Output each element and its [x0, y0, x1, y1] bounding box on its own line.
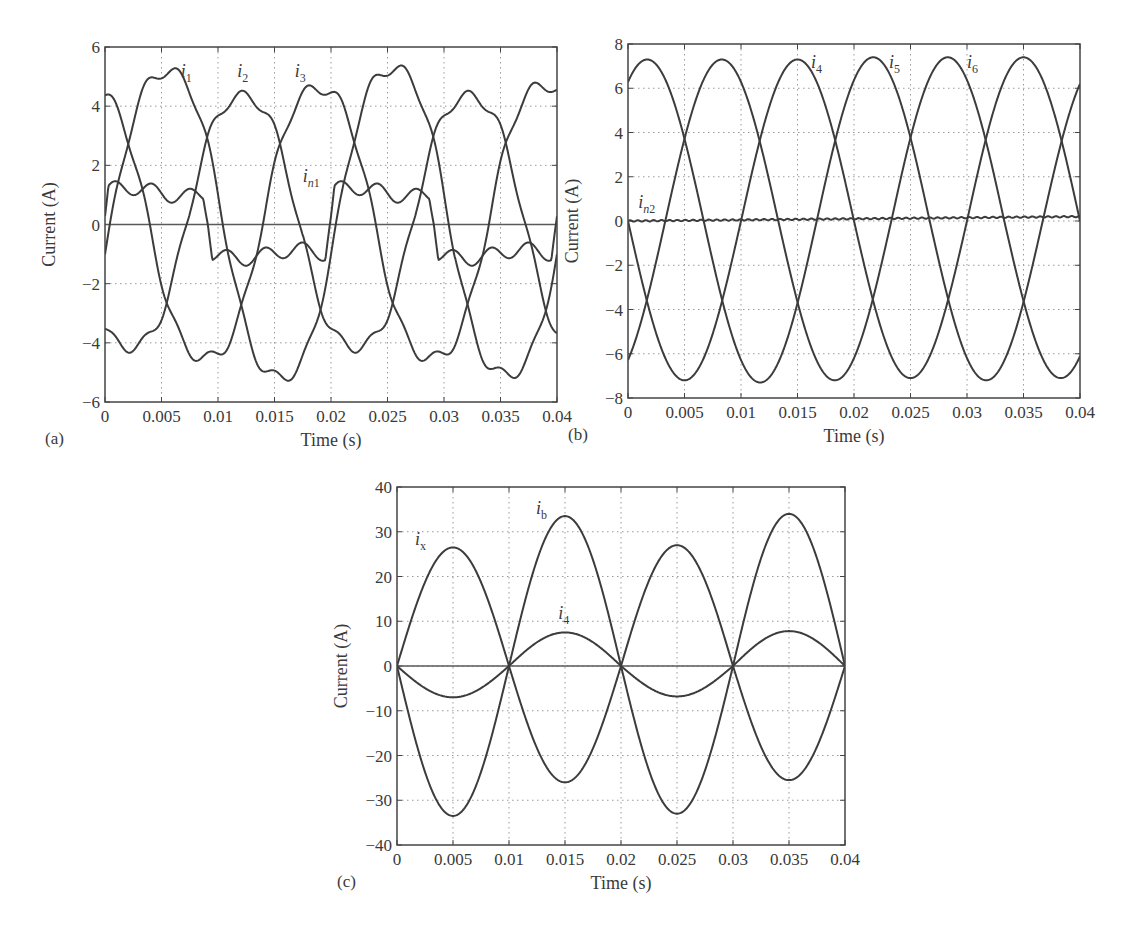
svg-text:20: 20 [375, 568, 392, 587]
svg-text:0.035: 0.035 [481, 407, 519, 426]
svg-text:−8: −8 [605, 389, 623, 408]
svg-text:0.03: 0.03 [952, 403, 982, 422]
curve-label-in2: in2 [638, 192, 655, 216]
svg-text:0: 0 [92, 216, 101, 235]
svg-text:0.015: 0.015 [546, 850, 584, 869]
x-axis-title: Time (s) [824, 426, 885, 447]
curve-labels: i1i2i3in1 [181, 61, 320, 190]
svg-text:4: 4 [92, 97, 101, 116]
y-tick-labels: −6−4−20246 [82, 38, 101, 412]
x-tick-labels: 00.0050.010.0150.020.0250.030.0350.04 [101, 407, 573, 426]
curve-label-i5: i5 [889, 52, 900, 76]
svg-text:−4: −4 [82, 334, 101, 353]
svg-text:30: 30 [375, 523, 392, 542]
y-axis-title: Current (A) [562, 179, 583, 263]
svg-text:0.035: 0.035 [1004, 403, 1042, 422]
chart-panel-a: 00.0050.010.0150.020.0250.030.0350.04−6−… [39, 38, 572, 451]
svg-text:0: 0 [615, 212, 624, 231]
y-axis-title: Current (A) [39, 182, 60, 266]
svg-text:0: 0 [393, 850, 402, 869]
svg-text:6: 6 [92, 38, 101, 57]
svg-text:−4: −4 [605, 301, 624, 320]
curve-label-ib: ib [536, 498, 547, 522]
y-tick-labels: −8−6−4−202468 [605, 35, 624, 408]
panel-label: (c) [337, 872, 356, 891]
x-axis-title: Time (s) [301, 430, 362, 451]
x-axis-title: Time (s) [591, 873, 652, 894]
svg-text:0.005: 0.005 [142, 407, 180, 426]
curve-label-in1: in1 [303, 166, 320, 190]
svg-text:8: 8 [615, 35, 624, 54]
x-tick-labels: 00.0050.010.0150.020.0250.030.0350.04 [624, 403, 1096, 422]
curve-label-i2: i2 [237, 61, 248, 85]
svg-text:0.035: 0.035 [770, 850, 808, 869]
svg-text:0.01: 0.01 [203, 407, 233, 426]
svg-text:−6: −6 [605, 345, 623, 364]
series-curves [628, 57, 1080, 382]
panel-label: (b) [568, 425, 588, 444]
curve-label-i1: i1 [181, 61, 192, 85]
svg-text:0.015: 0.015 [778, 403, 816, 422]
svg-text:0.015: 0.015 [255, 407, 293, 426]
series-curves [397, 514, 845, 816]
curve-labels: ixibi4 [415, 498, 569, 627]
svg-text:2: 2 [615, 168, 624, 187]
svg-text:10: 10 [375, 612, 392, 631]
svg-text:−10: −10 [365, 702, 392, 721]
svg-text:0.04: 0.04 [542, 407, 572, 426]
panel-label: (a) [45, 429, 64, 448]
curve-label-i6: i6 [967, 52, 978, 76]
figure-canvas: 00.0050.010.0150.020.0250.030.0350.04−6−… [0, 0, 1136, 929]
curve-labels: i4i5i6in2 [638, 52, 978, 215]
svg-text:0.03: 0.03 [718, 850, 748, 869]
svg-text:−30: −30 [365, 791, 392, 810]
svg-text:−40: −40 [365, 836, 392, 855]
y-axis-title: Current (A) [331, 624, 352, 708]
svg-text:6: 6 [615, 79, 624, 98]
curve-label-i4: i4 [558, 603, 569, 627]
svg-text:0: 0 [384, 657, 393, 676]
svg-text:−2: −2 [82, 275, 100, 294]
svg-text:0: 0 [101, 407, 110, 426]
svg-text:0.01: 0.01 [494, 850, 524, 869]
svg-text:0: 0 [624, 403, 633, 422]
svg-text:0.04: 0.04 [830, 850, 860, 869]
svg-text:0.02: 0.02 [606, 850, 636, 869]
svg-text:0.04: 0.04 [1065, 403, 1095, 422]
svg-text:0.005: 0.005 [665, 403, 703, 422]
curve-label-i3: i3 [295, 61, 306, 85]
y-tick-labels: −40−30−20−10010203040 [365, 478, 392, 855]
svg-text:0.005: 0.005 [434, 850, 472, 869]
svg-text:0.025: 0.025 [368, 407, 406, 426]
svg-text:0.025: 0.025 [658, 850, 696, 869]
svg-text:0.03: 0.03 [429, 407, 459, 426]
svg-text:−2: −2 [605, 256, 623, 275]
curve-label-ix: ix [415, 529, 426, 553]
svg-text:0.02: 0.02 [839, 403, 869, 422]
svg-text:−20: −20 [365, 747, 392, 766]
svg-text:0.025: 0.025 [891, 403, 929, 422]
svg-text:4: 4 [615, 124, 624, 143]
chart-panel-b: 00.0050.010.0150.020.0250.030.0350.04−8−… [562, 35, 1095, 447]
svg-text:2: 2 [92, 156, 101, 175]
svg-text:0.01: 0.01 [726, 403, 756, 422]
svg-text:0.02: 0.02 [316, 407, 346, 426]
x-tick-labels: 00.0050.010.0150.020.0250.030.0350.04 [393, 850, 861, 869]
chart-panel-c: 00.0050.010.0150.020.0250.030.0350.04−40… [331, 478, 860, 894]
svg-text:−6: −6 [82, 393, 100, 412]
svg-text:40: 40 [375, 478, 392, 497]
